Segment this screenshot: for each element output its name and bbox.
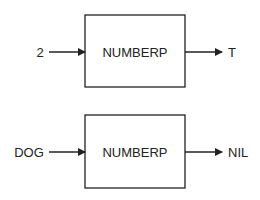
output-label: T bbox=[228, 45, 236, 60]
numberp-diagram: 2 NUMBERP T DOG NUMBERP NIL bbox=[0, 0, 260, 200]
output-label: NIL bbox=[228, 145, 248, 160]
function-label: NUMBERP bbox=[102, 45, 167, 60]
function-label: NUMBERP bbox=[102, 145, 167, 160]
row-2: DOG NUMBERP NIL bbox=[14, 115, 248, 188]
row-1: 2 NUMBERP T bbox=[36, 15, 236, 87]
input-label: DOG bbox=[14, 145, 44, 160]
input-label: 2 bbox=[36, 45, 43, 60]
